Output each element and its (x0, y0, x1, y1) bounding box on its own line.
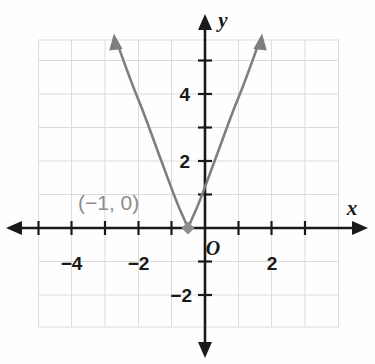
parabola-graph-figure: −4 −2 2 4 2 −2 x y O (−1, 0) (0, 0, 375, 364)
vertex-point-marker (182, 222, 195, 235)
origin-label: O (206, 237, 220, 259)
x-axis-right-arrow (352, 221, 368, 235)
y-tick-label-minus2: −2 (170, 285, 192, 306)
coordinate-plane-svg: −4 −2 2 4 2 −2 x y O (−1, 0) (0, 0, 375, 364)
y-axis-label: y (215, 8, 228, 32)
x-tick-label-minus2: −2 (128, 253, 150, 274)
y-tick-label-4: 4 (179, 84, 190, 105)
vertex-point-annotation: (−1, 0) (78, 191, 139, 214)
axis-arrowheads (6, 14, 368, 358)
x-tick-label-minus4: −4 (61, 253, 83, 274)
x-axis-left-arrow (6, 221, 22, 235)
parabola-right-arrowhead (253, 34, 266, 51)
x-axis-label: x (346, 196, 358, 220)
y-axis-down-arrow (198, 342, 212, 358)
parabola-left-arrowhead (109, 34, 122, 51)
x-tick-label-2: 2 (267, 253, 278, 274)
y-axis-up-arrow (198, 14, 212, 30)
y-tick-label-2: 2 (179, 151, 190, 172)
